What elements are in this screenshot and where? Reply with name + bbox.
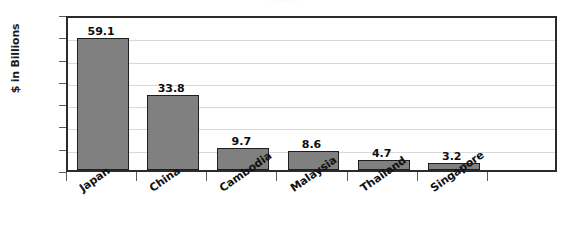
gridline — [68, 40, 555, 41]
bar-chart: |||||||| $ in Billions 706050403020100 5… — [0, 0, 568, 236]
bar — [147, 95, 199, 170]
bar-value-label: 9.7 — [232, 135, 252, 148]
bar-value-label: 59.1 — [87, 25, 114, 38]
x-axis-tick-mark — [276, 172, 277, 181]
bar-value-label: 8.6 — [302, 138, 322, 151]
gridline — [68, 85, 555, 86]
bar-value-label: 4.7 — [372, 147, 392, 160]
x-axis-tick-mark — [417, 172, 418, 181]
gridline — [68, 107, 555, 108]
bar — [77, 38, 129, 170]
gridline — [68, 63, 555, 64]
chart-title-fragment: |||||||| — [0, 0, 568, 1]
x-axis-tick-mark — [136, 172, 137, 181]
x-axis-tick-mark — [347, 172, 348, 181]
x-axis-tick-mark — [206, 172, 207, 181]
gridline — [68, 129, 555, 130]
bar-value-label: 33.8 — [158, 82, 185, 95]
x-axis-tick-mark — [66, 172, 67, 181]
x-axis-tick-mark — [487, 172, 488, 181]
y-axis-title: $ in Billions — [9, 0, 22, 124]
